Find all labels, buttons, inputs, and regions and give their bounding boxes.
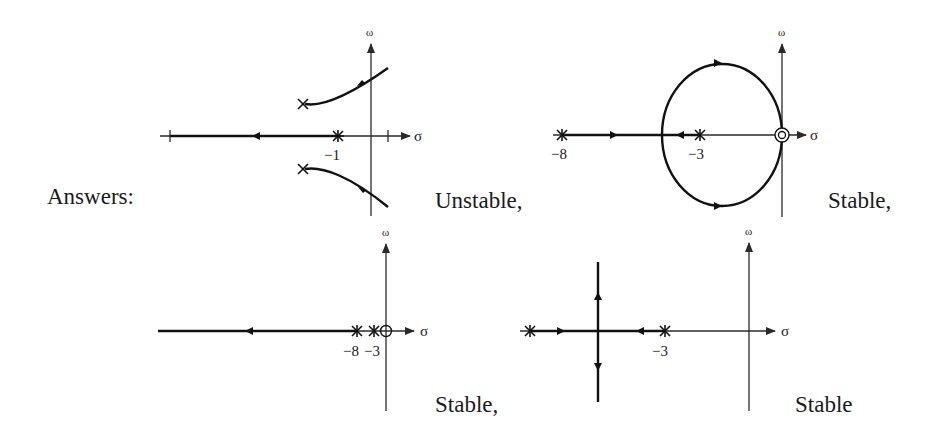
omega-label: ω (366, 26, 373, 38)
root-locus-d: σ ω −3 (520, 225, 789, 411)
double-pole-icon (332, 130, 344, 142)
double-zero-icon (775, 128, 789, 142)
omega-label: ω (778, 26, 785, 38)
tick-label: −1 (324, 147, 340, 163)
tick-label: −8 (343, 343, 359, 359)
tick-label: −8 (551, 146, 567, 162)
direction-arrow (636, 327, 644, 335)
omega-label: ω (745, 225, 752, 237)
lower-branch (305, 168, 388, 207)
sigma-label: σ (420, 323, 428, 339)
tick-label: −3 (688, 146, 704, 162)
root-locus-a: σ ω −1 (160, 26, 422, 216)
direction-arrow (714, 202, 722, 210)
direction-arrow (245, 327, 253, 335)
direction-arrow (557, 327, 565, 335)
diagrams-svg: σ ω −1 σ ω (0, 0, 947, 443)
root-locus-b: σ ω −8 −3 (551, 26, 818, 217)
direction-arrow (714, 59, 722, 67)
direction-arrow (594, 292, 602, 300)
direction-arrow (594, 363, 602, 371)
direction-arrow (252, 132, 260, 140)
root-locus-answers-figure: Answers: Unstable, Stable, Stable, Stabl… (0, 0, 947, 443)
root-locus-c: σ ω −8 −3 (158, 226, 428, 411)
sigma-label: σ (810, 127, 818, 143)
tick-label: −3 (652, 343, 668, 359)
direction-arrow (676, 131, 684, 139)
sigma-label: σ (414, 128, 422, 144)
upper-branch (305, 68, 388, 104)
sigma-label: σ (781, 323, 789, 339)
omega-label: ω (382, 226, 389, 238)
tick-label: −3 (364, 343, 380, 359)
direction-arrow (610, 131, 618, 139)
